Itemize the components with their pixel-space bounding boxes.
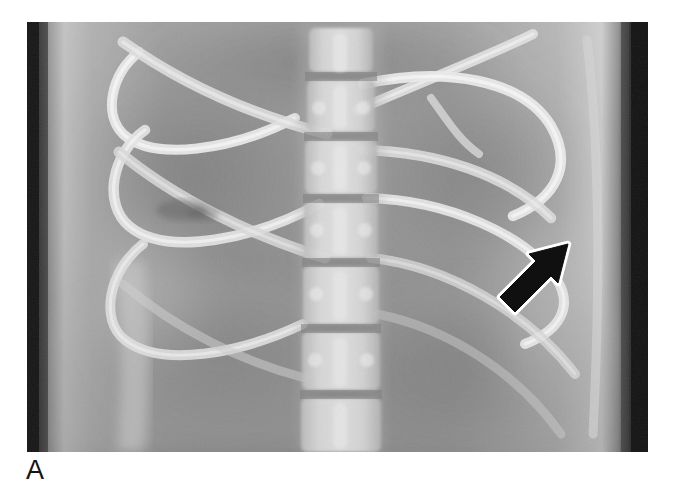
panel-label: A [26, 455, 44, 484]
radiograph-image [27, 22, 648, 452]
film-grain [27, 22, 648, 452]
radiograph-canvas [27, 22, 648, 452]
figure-root: A [0, 0, 674, 484]
